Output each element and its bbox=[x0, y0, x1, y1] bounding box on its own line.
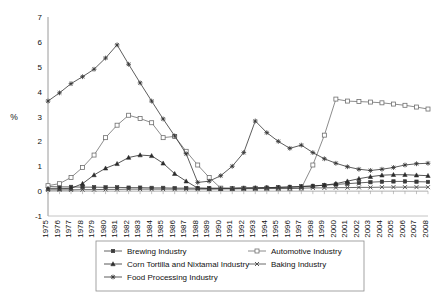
marker-open-square bbox=[255, 249, 259, 253]
x-tick-label: 1989 bbox=[202, 219, 211, 237]
x-tick-label: 1993 bbox=[248, 219, 257, 237]
data-point-filled-star bbox=[322, 156, 327, 161]
marker-filled-triangle bbox=[184, 179, 188, 183]
marker-open-square bbox=[345, 99, 349, 103]
data-point-open-square bbox=[345, 99, 349, 103]
marker-filled-square bbox=[403, 180, 406, 183]
legend-item[interactable]: Baking Industry bbox=[248, 260, 326, 269]
y-tick-label: 6 bbox=[38, 38, 43, 47]
x-tick-label: 1980 bbox=[99, 219, 108, 237]
marker-open-square bbox=[115, 123, 119, 127]
data-point-filled-star bbox=[115, 42, 120, 47]
legend-item[interactable]: Automotive Industry bbox=[248, 247, 342, 256]
legend-label: Brewing Industry bbox=[127, 247, 187, 256]
data-point-open-square bbox=[81, 165, 85, 169]
data-point-filled-triangle bbox=[184, 179, 188, 183]
data-point-filled-star bbox=[161, 117, 166, 122]
data-point-filled-star bbox=[218, 173, 223, 178]
data-point-open-square bbox=[357, 100, 361, 104]
x-tick-label: 1976 bbox=[53, 219, 62, 237]
data-point-filled-triangle bbox=[115, 161, 119, 165]
legend-item[interactable]: Corn Tortilla and Nixtamal Industry bbox=[104, 260, 249, 269]
marker-filled-square bbox=[369, 180, 372, 183]
series-2 bbox=[46, 153, 430, 191]
x-tick-label: 1987 bbox=[179, 219, 188, 237]
x-tick-label: 1984 bbox=[145, 219, 154, 237]
data-point-open-square bbox=[322, 133, 326, 137]
data-point-filled-star bbox=[357, 167, 362, 172]
x-tick-label: 1988 bbox=[191, 219, 200, 237]
marker-filled-square bbox=[415, 180, 418, 183]
x-tick-label: 1986 bbox=[168, 219, 177, 237]
marker-open-square bbox=[380, 101, 384, 105]
marker-filled-square bbox=[426, 180, 429, 183]
marker-filled-triangle bbox=[92, 173, 96, 177]
legend-item[interactable]: Brewing Industry bbox=[104, 247, 187, 256]
data-point-filled-star bbox=[264, 130, 269, 135]
data-point-filled-star bbox=[69, 81, 74, 86]
x-tick-label: 2005 bbox=[386, 219, 395, 237]
data-point-open-square bbox=[92, 153, 96, 157]
y-tick-label: 0 bbox=[38, 187, 43, 196]
data-point-open-square bbox=[426, 107, 430, 111]
legend-item[interactable]: Food Processing Industry bbox=[104, 273, 218, 282]
data-point-open-square bbox=[380, 101, 384, 105]
marker-open-square bbox=[150, 121, 154, 125]
x-tick-label: 1995 bbox=[271, 219, 280, 237]
y-axis-title: % bbox=[10, 112, 18, 122]
data-point-filled-star bbox=[207, 179, 212, 184]
data-point-filled-star bbox=[299, 143, 304, 148]
data-point-open-square bbox=[115, 123, 119, 127]
series-line-4 bbox=[48, 45, 428, 183]
data-point-open-square bbox=[161, 136, 165, 140]
marker-filled-triangle bbox=[80, 181, 84, 185]
x-tick-label: 1994 bbox=[260, 219, 269, 237]
marker-open-square bbox=[81, 165, 85, 169]
data-point-open-square bbox=[58, 182, 62, 186]
data-point-filled-star bbox=[333, 161, 338, 166]
marker-open-square bbox=[391, 102, 395, 106]
data-point-open-square bbox=[311, 163, 315, 167]
marker-open-square bbox=[357, 100, 361, 104]
data-point-open-square bbox=[255, 249, 259, 253]
x-tick-label: 1982 bbox=[122, 219, 131, 237]
marker-open-square bbox=[311, 163, 315, 167]
y-tick-label: 1 bbox=[38, 162, 43, 171]
y-tick-label: 7 bbox=[38, 13, 43, 22]
marker-filled-square bbox=[111, 249, 114, 252]
data-point-filled-triangle bbox=[161, 161, 165, 165]
marker-open-square bbox=[104, 136, 108, 140]
y-tick-label: -1 bbox=[35, 212, 43, 221]
marker-open-square bbox=[161, 136, 165, 140]
data-point-filled-square bbox=[369, 180, 372, 183]
marker-filled-square bbox=[357, 181, 360, 184]
data-point-filled-square bbox=[415, 180, 418, 183]
data-point-filled-star bbox=[287, 146, 292, 151]
marker-open-square bbox=[334, 97, 338, 101]
data-point-open-square bbox=[196, 163, 200, 167]
data-point-filled-square bbox=[403, 180, 406, 183]
data-point-filled-star bbox=[253, 119, 258, 124]
data-point-filled-star bbox=[92, 67, 97, 72]
legend-label: Automotive Industry bbox=[271, 247, 342, 256]
data-point-filled-star bbox=[184, 151, 189, 156]
data-point-filled-star bbox=[103, 56, 108, 61]
data-point-open-square bbox=[334, 97, 338, 101]
data-point-filled-square bbox=[426, 180, 429, 183]
x-tick-label: 2000 bbox=[329, 219, 338, 237]
line-chart: -101234567%19751976197719781979198019811… bbox=[0, 0, 440, 295]
data-point-open-square bbox=[127, 113, 131, 117]
marker-open-square bbox=[322, 133, 326, 137]
data-point-filled-star bbox=[414, 161, 419, 166]
data-point-filled-square bbox=[357, 181, 360, 184]
x-tick-label: 1990 bbox=[214, 219, 223, 237]
data-point-filled-star bbox=[380, 167, 385, 172]
marker-open-square bbox=[414, 105, 418, 109]
data-point-filled-star bbox=[172, 134, 177, 139]
data-point-filled-square bbox=[392, 180, 395, 183]
marker-open-square bbox=[69, 175, 73, 179]
data-point-filled-star bbox=[426, 161, 431, 166]
data-point-open-square bbox=[403, 103, 407, 107]
data-point-filled-triangle bbox=[80, 181, 84, 185]
x-tick-label: 2003 bbox=[363, 219, 372, 237]
